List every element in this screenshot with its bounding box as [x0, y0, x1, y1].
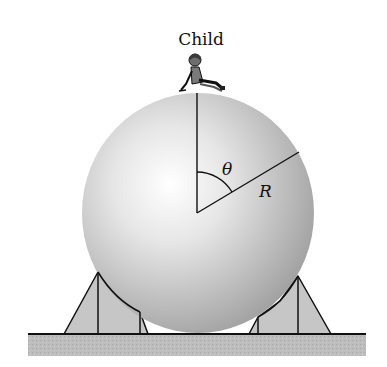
child-label: Child	[178, 29, 224, 49]
ground	[28, 334, 366, 356]
child-hand	[179, 90, 186, 91]
radius-label: R	[258, 181, 272, 201]
child-figure	[179, 54, 225, 91]
child-arm	[181, 71, 192, 90]
child-shoe	[220, 86, 225, 90]
theta-label: θ	[222, 159, 232, 179]
diagram-canvas: θ R Child	[0, 0, 387, 367]
